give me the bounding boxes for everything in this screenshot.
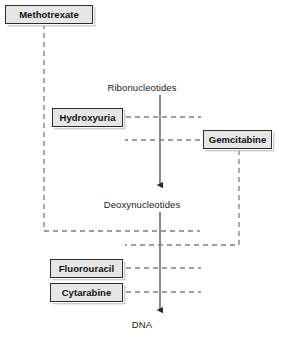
drug-label-cytarabine: Cytarabine — [62, 287, 112, 298]
node-label-ribonucleotides: Ribonucleotides — [0, 82, 284, 93]
pathway-diagram — [0, 0, 284, 340]
drug-box-fluorouracil[interactable]: Fluorouracil — [50, 259, 123, 278]
drug-box-gemcitabine[interactable]: Gemcitabine — [203, 130, 272, 149]
drug-box-methotrexate[interactable]: Methotrexate — [5, 5, 93, 24]
drug-label-fluorouracil: Fluorouracil — [59, 263, 115, 274]
drug-label-hydroxyuria: Hydroxyuria — [60, 112, 116, 123]
drug-label-gemcitabine: Gemcitabine — [209, 134, 267, 145]
drug-label-methotrexate: Methotrexate — [19, 9, 79, 20]
deoxynucleotides-text: Deoxynucleotides — [104, 199, 181, 210]
drug-box-cytarabine[interactable]: Cytarabine — [50, 283, 123, 302]
node-label-dna: DNA — [0, 319, 284, 330]
dna-text: DNA — [132, 319, 152, 330]
ribonucleotides-text: Ribonucleotides — [107, 82, 176, 93]
node-label-deoxynucleotides: Deoxynucleotides — [0, 199, 284, 210]
drug-box-hydroxyuria[interactable]: Hydroxyuria — [52, 108, 123, 127]
